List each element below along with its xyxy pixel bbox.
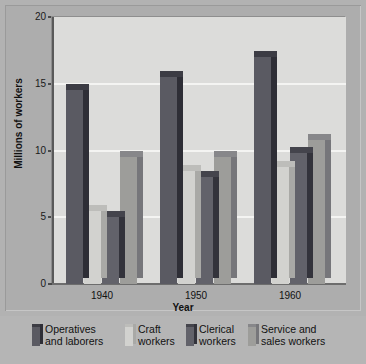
legend-swatch-face: [248, 326, 256, 346]
x-tick-label: 1960: [260, 290, 320, 301]
legend-label-line1: Craft: [138, 324, 175, 336]
bar-top-corner: [119, 211, 125, 217]
bar-top: [160, 71, 177, 77]
bar-top-corner: [177, 71, 183, 77]
legend-swatch-top: [32, 324, 40, 327]
chart-screenshot: Millions of workers 05101520 19401950196…: [0, 0, 366, 364]
legend-label-line1: Operatives: [45, 324, 103, 336]
legend-label: Clericalworkers: [199, 324, 236, 347]
bar-side: [137, 151, 143, 278]
legend-swatch-face: [125, 326, 133, 346]
bar-face: [254, 57, 271, 284]
bar-top-corner: [307, 147, 313, 153]
bar-side: [271, 51, 277, 278]
legend-swatch-side: [40, 324, 43, 344]
y-tick-label: 10: [0, 146, 46, 156]
bar-top: [120, 151, 137, 157]
bar-top: [254, 51, 271, 57]
legend-label-line2: workers: [199, 336, 236, 348]
bar-face: [160, 77, 177, 284]
legend-swatch-face: [32, 326, 40, 346]
bar-top: [308, 134, 325, 140]
legend-label-line2: sales workers: [261, 336, 325, 348]
y-tick-label: 0: [0, 279, 46, 289]
bar-top-corner: [325, 134, 331, 140]
legend-label-line2: and laborers: [45, 336, 103, 348]
bar-top-corner: [213, 171, 219, 177]
bar-top: [290, 147, 307, 153]
bar-side: [119, 211, 125, 278]
bar-top-corner: [83, 84, 89, 90]
bar-top-corner: [101, 205, 107, 211]
legend-swatch-top: [186, 324, 194, 327]
legend-item-service[interactable]: Service andsales workers: [248, 324, 325, 347]
legend-swatch-side: [133, 324, 136, 344]
bar-side: [101, 205, 107, 278]
bar-side: [307, 147, 313, 278]
bar-side: [177, 71, 183, 278]
legend-swatch-top: [248, 324, 256, 327]
x-tick-label: 1950: [166, 290, 226, 301]
y-axis-line: [52, 17, 54, 285]
legend-swatch-face: [186, 326, 194, 346]
legend-swatch-clerical: [186, 324, 194, 346]
legend-swatch-side: [256, 324, 259, 344]
y-tick-label: 15: [0, 79, 46, 89]
chart-legend: Operativesand laborersCraftworkersCleric…: [0, 318, 366, 364]
bar-side: [83, 84, 89, 278]
legend-item-operatives[interactable]: Operativesand laborers: [32, 324, 103, 347]
gridline: [52, 83, 346, 85]
plot-inner: [52, 17, 346, 284]
legend-label: Service andsales workers: [261, 324, 325, 347]
legend-item-craft[interactable]: Craftworkers: [125, 324, 175, 347]
bar-operatives-1960: [254, 57, 271, 284]
legend-label-line1: Service and: [261, 324, 325, 336]
legend-label-line2: workers: [138, 336, 175, 348]
bar-side: [213, 171, 219, 278]
bar-top-corner: [195, 165, 201, 171]
legend-label-line1: Clerical: [199, 324, 236, 336]
chart-frame: Millions of workers 05101520 19401950196…: [0, 0, 366, 316]
legend-item-clerical[interactable]: Clericalworkers: [186, 324, 236, 347]
plot-area: [52, 17, 346, 284]
legend-label: Craftworkers: [138, 324, 175, 347]
legend-swatch-craft: [125, 324, 133, 346]
x-axis-label: Year: [0, 302, 366, 313]
legend-swatch-side: [194, 324, 197, 344]
bar-side: [289, 161, 295, 278]
bar-side: [325, 134, 331, 278]
legend-swatch-service: [248, 324, 256, 346]
bar-top-corner: [289, 161, 295, 167]
legend-swatch-top: [125, 324, 133, 327]
bar-top: [214, 151, 231, 157]
bar-face: [66, 90, 83, 284]
legend-swatch-operatives: [32, 324, 40, 346]
y-tick-label: 5: [0, 212, 46, 222]
bar-top: [66, 84, 83, 90]
y-tick-label: 20: [0, 12, 46, 22]
bar-operatives-1950: [160, 77, 177, 284]
bar-side: [195, 165, 201, 278]
bar-top-corner: [271, 51, 277, 57]
bar-top-corner: [137, 151, 143, 157]
y-axis-label: Millions of workers: [13, 54, 24, 194]
bar-operatives-1940: [66, 90, 83, 284]
legend-label: Operativesand laborers: [45, 324, 103, 347]
bar-side: [231, 151, 237, 278]
bar-top-corner: [231, 151, 237, 157]
x-tick-label: 1940: [72, 290, 132, 301]
